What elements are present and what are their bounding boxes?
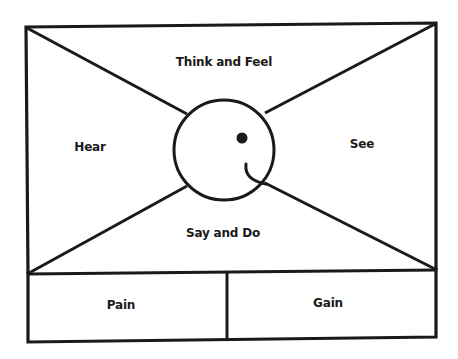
empathy-map-drawing <box>0 0 458 359</box>
quadrant-say-and-do-label: Say and Do <box>186 226 260 240</box>
quadrant-hear-label: Hear <box>74 140 105 154</box>
empathy-map-diagram: Think and Feel Hear See Say and Do Pain … <box>0 0 458 359</box>
diagonal-top-left <box>27 28 187 114</box>
quadrant-think-and-feel-label: Think and Feel <box>176 55 272 69</box>
diagonal-top-right <box>265 24 435 113</box>
lower-frame <box>28 268 436 342</box>
face-eye <box>237 133 248 144</box>
pain-label: Pain <box>107 298 135 312</box>
diagonal-bottom-right <box>265 183 435 269</box>
smiley-face-icon <box>174 100 274 200</box>
diagonal-bottom-left <box>29 186 187 273</box>
face-circle <box>174 100 274 200</box>
gain-label: Gain <box>313 296 343 310</box>
pain-gain-separator <box>27 270 437 274</box>
quadrant-see-label: See <box>350 137 374 151</box>
